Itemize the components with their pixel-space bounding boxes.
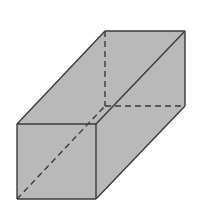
prism-faces [17, 31, 185, 199]
rectangular-prism-diagram [0, 0, 198, 214]
prism-body-fill [17, 31, 185, 199]
